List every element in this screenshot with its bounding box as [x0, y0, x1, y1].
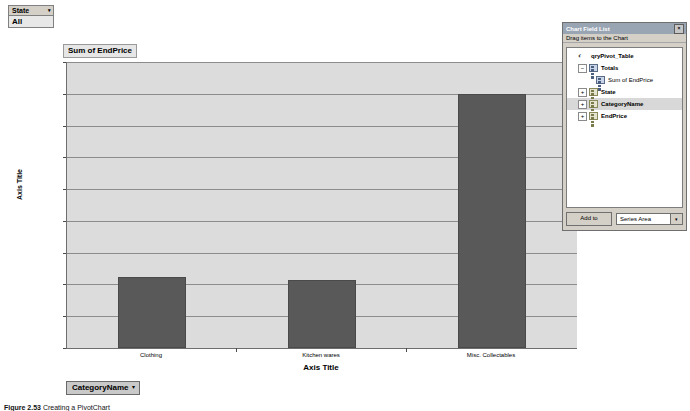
field-tree-node[interactable]: Sum of EndPrice — [567, 74, 682, 86]
add-to-button[interactable]: Add to — [566, 212, 612, 226]
pivot-chart[interactable]: Sum of EndPrice Axis Title Axis Title $4… — [0, 0, 600, 372]
figure-number: Figure 2.53 — [4, 404, 41, 411]
close-icon[interactable]: × — [674, 24, 684, 34]
field-tree-node-label: Totals — [601, 65, 618, 71]
chart-field-list-instruction: Drag items to the Chart — [563, 34, 686, 43]
expand-icon[interactable]: + — [578, 88, 587, 97]
field-tree-node[interactable]: +EndPrice — [567, 110, 682, 122]
chart-field-list-window[interactable]: Chart Field List × Drag items to the Cha… — [562, 22, 687, 231]
y-axis-tick-mark — [63, 348, 66, 349]
expand-icon[interactable]: + — [578, 100, 587, 109]
x-axis-tick-label: Misc. Collectables — [467, 352, 515, 358]
target-area-select[interactable]: Series Area ▾ — [616, 213, 683, 225]
field-tree-node[interactable]: +CategoryName — [567, 98, 682, 110]
x-axis-tick-label: Kitchen wares — [302, 352, 340, 358]
y-axis-tick-mark — [63, 62, 66, 63]
x-axis-title[interactable]: Axis Title — [66, 363, 576, 372]
figure-caption-text: Creating a PivotChart — [43, 404, 110, 411]
figure-caption: Figure 2.53 Creating a PivotChart — [4, 404, 110, 411]
expand-icon[interactable]: + — [578, 112, 587, 121]
x-axis-tick-mark — [236, 348, 237, 352]
x-axis-tick-mark — [406, 348, 407, 352]
plot-area — [66, 62, 577, 349]
field-tree-node-label: EndPrice — [601, 113, 627, 119]
x-axis-tick-label: Clothing — [140, 352, 162, 358]
y-axis-tick-mark — [63, 126, 66, 127]
target-area-value: Series Area — [620, 216, 651, 222]
grid-line — [67, 62, 577, 63]
y-axis-tick-mark — [63, 316, 66, 317]
field-tree-node-label: Sum of EndPrice — [608, 77, 653, 83]
field-tree-node-label: CategoryName — [601, 101, 643, 107]
chevron-down-icon[interactable]: ▾ — [132, 385, 135, 390]
chart-field-list-titlebar[interactable]: Chart Field List × — [563, 23, 686, 34]
table-icon — [589, 112, 598, 120]
database-icon: ◐ — [578, 52, 588, 60]
collapse-icon[interactable]: − — [578, 64, 587, 73]
table-icon — [589, 88, 598, 96]
series-title[interactable]: Sum of EndPrice — [63, 44, 137, 58]
y-axis-tick-mark — [63, 253, 66, 254]
field-tree-node[interactable]: ◐qryPivot_Table — [567, 50, 682, 62]
y-axis[interactable] — [0, 0, 66, 360]
chart-field-list-footer[interactable]: Add to Series Area ▾ — [566, 212, 683, 226]
totals-icon — [589, 64, 598, 72]
y-axis-tick-mark — [63, 221, 66, 222]
chevron-down-icon[interactable]: ▾ — [670, 214, 682, 224]
table-icon — [589, 100, 598, 108]
field-tree-node-label: State — [601, 89, 616, 95]
y-axis-tick-mark — [63, 157, 66, 158]
field-icon — [596, 76, 605, 84]
y-axis-tick-mark — [63, 284, 66, 285]
category-field-label: CategoryName — [72, 383, 128, 392]
bar[interactable] — [288, 280, 356, 348]
bar[interactable] — [118, 277, 186, 348]
field-tree-node[interactable]: −Totals — [567, 62, 682, 74]
bar[interactable] — [458, 94, 526, 348]
chart-field-list-title: Chart Field List — [566, 26, 610, 32]
field-tree-node[interactable]: +State — [567, 86, 682, 98]
y-axis-tick-mark — [63, 94, 66, 95]
y-axis-tick-mark — [63, 189, 66, 190]
field-tree[interactable]: ◐qryPivot_Table−TotalsSum of EndPrice+St… — [566, 47, 683, 208]
field-tree-node-label: qryPivot_Table — [591, 53, 634, 59]
category-field-button[interactable]: CategoryName ▾ — [66, 381, 140, 395]
